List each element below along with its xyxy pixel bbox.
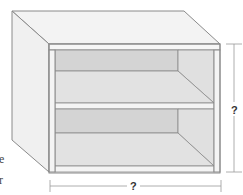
shelf-top-front-edge: [49, 44, 220, 50]
left-front-post: [49, 50, 55, 172]
bookshelf-diagram: ? ? e r: [0, 0, 243, 195]
right-front-post: [214, 50, 220, 172]
cropped-text-fragment-2: r: [0, 173, 3, 187]
middle-shelf: [55, 103, 214, 109]
width-dimension: ?: [50, 180, 221, 192]
upper-back-panel: [55, 50, 178, 71]
height-label: ?: [231, 104, 238, 116]
bottom-shelf: [55, 166, 214, 172]
width-label: ?: [130, 180, 137, 192]
height-dimension: ?: [226, 44, 242, 172]
cropped-text-fragment-1: e: [0, 152, 4, 166]
lower-back-panel: [55, 109, 178, 133]
